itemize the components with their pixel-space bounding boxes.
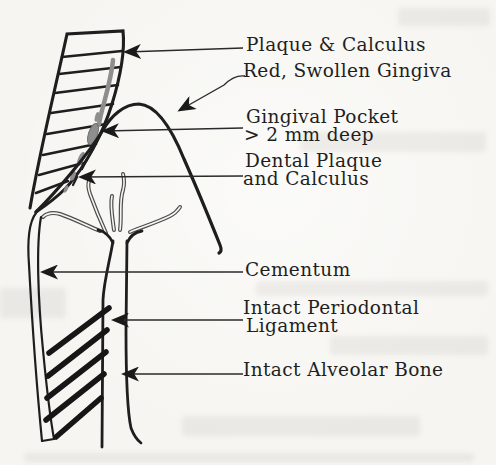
- scanned-figure-page: Plaque & Calculus Red, Swollen Gingiva G…: [0, 0, 496, 465]
- label-plaque-calculus: Plaque & Calculus: [246, 36, 426, 54]
- label-periodontal-ligament-line2: Ligament: [246, 317, 338, 335]
- leader-red-swollen-gingiva: [180, 76, 245, 110]
- vessel-trunk: [98, 230, 142, 447]
- label-alveolar-bone: Intact Alveolar Bone: [243, 361, 443, 379]
- leader-gingival-pocket: [104, 128, 243, 131]
- cementum-band: [28, 213, 54, 441]
- leader-plaque-calculus: [126, 48, 243, 52]
- label-cementum: Cementum: [245, 261, 351, 279]
- leader-dental-plaque: [81, 176, 243, 177]
- label-red-swollen-gingiva: Red, Swollen Gingiva: [243, 62, 452, 80]
- leader-lines: [43, 48, 245, 374]
- label-dental-plaque-line2: and Calculus: [243, 170, 369, 188]
- label-gingival-pocket-line2: > 2 mm deep: [244, 126, 374, 144]
- periodontal-ligament-hatching: [46, 308, 109, 437]
